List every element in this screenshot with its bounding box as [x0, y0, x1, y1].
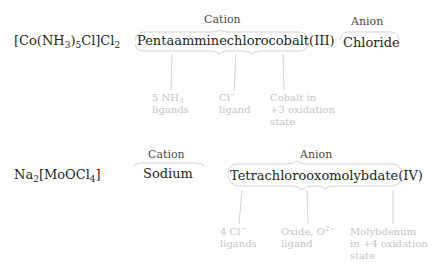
formula-cobalt-complex: [Co(NH3)5Cl]Cl2 [14, 33, 120, 48]
annotation-cobalt-oxidation: Cobalt in +3 oxidation state [270, 92, 360, 128]
annotation-oxide-ligand: Oxide, O2− ligand [281, 226, 351, 250]
cation-header: Cation [204, 13, 241, 26]
anion-header-2: Anion [300, 148, 332, 161]
anion-header: Anion [351, 15, 383, 28]
annotation-cl-ligand: Cl− ligand [219, 92, 269, 116]
annotation-nh3-ligands: 5 NH3 ligands [152, 92, 212, 116]
annotation-cl-ligands: 4 Cl− ligands [220, 226, 280, 250]
cation-name: Pentaamminechlorocobalt(III) [137, 33, 335, 48]
anion-name-2: Tetrachlorooxomolybdate(IV) [230, 168, 423, 183]
cation-name-2: Sodium [143, 166, 193, 181]
annotation-molybdenum-oxidation: Molybdenum in +4 oxidation state [350, 226, 440, 262]
cation-header-2: Cation [148, 148, 185, 161]
anion-name: Chloride [343, 35, 400, 50]
formula-molybdate-complex: Na2[MoOCl4] [14, 167, 101, 182]
